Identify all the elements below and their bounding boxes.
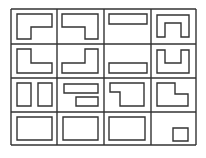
arch-shape <box>157 15 189 37</box>
two-horizontal-bars <box>76 97 98 106</box>
two-horizontal-bars <box>64 84 98 93</box>
l-shape-notch-bottom-right <box>17 14 52 39</box>
step-shape-top-right <box>157 83 188 106</box>
cell-r3c2-two-horizontal-bars <box>64 84 98 106</box>
cell-r2c3-bar-bottom <box>109 63 147 73</box>
small-rectangle <box>173 128 188 141</box>
u-shape <box>157 50 189 73</box>
shape-grid-diagram <box>0 0 206 158</box>
cell-r3c3-step-shape-top-left <box>110 83 144 106</box>
cell-r3c4-step-shape-top-right <box>157 83 188 106</box>
bar-top <box>109 14 147 24</box>
cell-r2c1-l-shape-notch-top-right <box>17 49 52 73</box>
cell-r3c1-two-vertical-bars <box>17 83 52 106</box>
cell-r1c2-l-shape-notch-bottom-left <box>62 14 98 39</box>
cell-r4c2-rectangle <box>63 117 98 140</box>
cell-r4c4-small-rectangle <box>173 128 188 141</box>
two-vertical-bars <box>38 83 52 106</box>
cell-r2c2-l-shape-notch-top-left <box>62 49 98 73</box>
bar-bottom <box>109 63 147 73</box>
l-shape-notch-bottom-left <box>62 14 98 39</box>
cell-r1c4-arch-shape <box>157 15 189 37</box>
step-shape-top-left <box>110 83 144 106</box>
rectangle <box>63 117 98 140</box>
cell-r2c4-u-shape <box>157 50 189 73</box>
l-shape-notch-top-right <box>17 49 52 73</box>
cell-r4c1-rectangle <box>17 117 52 140</box>
rectangle <box>109 117 145 140</box>
cell-r4c3-rectangle <box>109 117 145 140</box>
cell-r1c1-l-shape-notch-bottom-right <box>17 14 52 39</box>
l-shape-notch-top-left <box>62 49 98 73</box>
cell-r1c3-bar-top <box>109 14 147 24</box>
rectangle <box>17 117 52 140</box>
two-vertical-bars <box>17 83 31 106</box>
